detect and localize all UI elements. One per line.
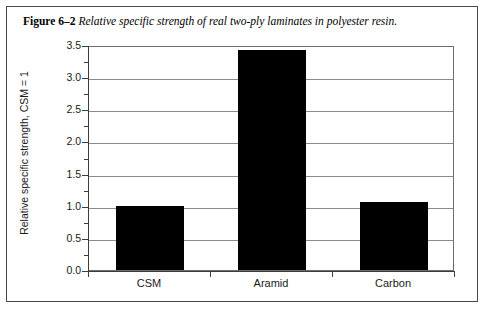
x-axis-line [88, 271, 455, 272]
y-axis-tick [82, 239, 88, 240]
plot-area [88, 46, 454, 271]
y-axis-tick-label: 1.0 [53, 201, 81, 212]
y-axis-line [88, 46, 89, 272]
y-axis-tick [82, 110, 88, 111]
y-axis-tick-label: 1.5 [53, 169, 81, 180]
bar-chart: 0.00.51.01.52.02.53.03.5 Relative specif… [7, 7, 479, 303]
y-axis-tick-label: 2.0 [53, 136, 81, 147]
x-axis-tick [332, 272, 333, 277]
y-axis-tick-label: 0.0 [53, 265, 81, 276]
y-axis-tick-label: 0.5 [53, 233, 81, 244]
x-axis-label-carbon: Carbon [348, 277, 438, 289]
figure-frame: Figure 6–2 Relative specific strength of… [6, 6, 478, 302]
bar-csm[interactable] [116, 206, 184, 270]
y-axis-tick [82, 142, 88, 143]
x-axis-tick [88, 272, 89, 277]
y-axis-minor-tick [84, 94, 88, 95]
y-axis-minor-tick [84, 62, 88, 63]
y-axis-minor-tick [84, 223, 88, 224]
y-axis-title: Relative specific strength, CSM = 1 [18, 53, 30, 253]
y-axis-minor-tick [84, 255, 88, 256]
y-axis-tick-label: 3.0 [53, 72, 81, 83]
y-axis-minor-tick [84, 159, 88, 160]
bar-aramid[interactable] [238, 50, 306, 270]
x-axis-label-csm: CSM [104, 277, 194, 289]
x-axis-tick [210, 272, 211, 277]
bar-carbon[interactable] [360, 202, 428, 270]
y-axis-minor-tick [84, 126, 88, 127]
y-axis-tick-labels: 0.00.51.01.52.02.53.03.5 [49, 7, 81, 303]
y-axis-tick [82, 207, 88, 208]
x-axis-label-aramid: Aramid [226, 277, 316, 289]
y-axis-tick-label: 2.5 [53, 104, 81, 115]
x-axis-tick [454, 272, 455, 277]
y-axis-tick [82, 175, 88, 176]
y-axis-minor-tick [84, 191, 88, 192]
y-axis-tick [82, 78, 88, 79]
y-axis-tick-label: 3.5 [53, 40, 81, 51]
y-axis-tick [82, 46, 88, 47]
